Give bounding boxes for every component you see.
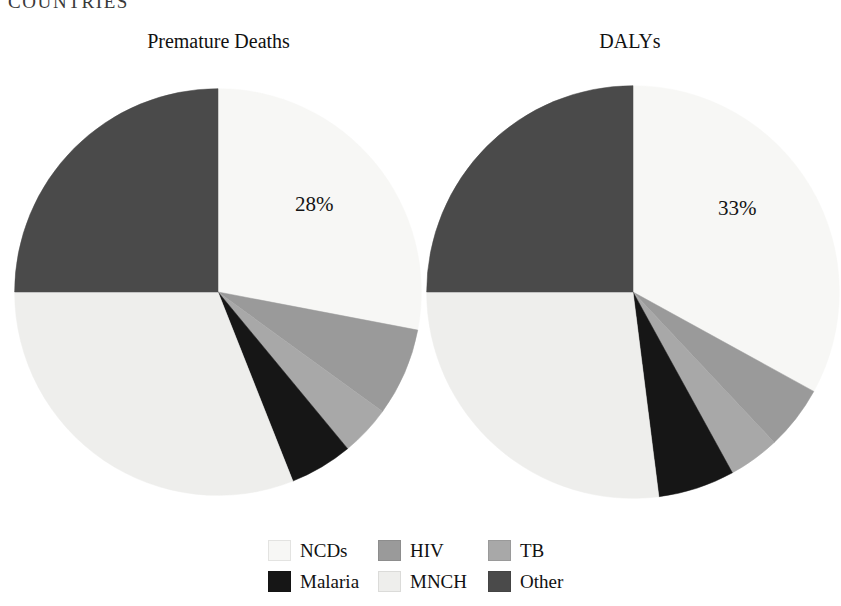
running-head: COUNTRIES bbox=[8, 0, 129, 13]
legend-item-ncds: NCDs bbox=[268, 540, 378, 562]
pie-slice-mnch bbox=[427, 292, 659, 498]
legend-label-tb: TB bbox=[520, 540, 544, 562]
pie-slice-other bbox=[15, 89, 218, 292]
pie-chart-premature-deaths bbox=[13, 87, 423, 497]
legend-item-other: Other bbox=[488, 571, 598, 593]
legend-label-malaria: Malaria bbox=[300, 571, 359, 593]
panel-title-dalys: DALYs bbox=[420, 30, 840, 53]
legend-swatch-tb-icon bbox=[488, 540, 511, 561]
legend-item-mnch: MNCH bbox=[378, 571, 488, 593]
panel-title-premature-deaths: Premature Deaths bbox=[0, 30, 437, 53]
legend-label-ncds: NCDs bbox=[300, 540, 348, 562]
legend-item-malaria: Malaria bbox=[268, 571, 378, 593]
pie-slice-label-ncds-premature-deaths: 28% bbox=[295, 192, 334, 217]
legend-item-hiv: HIV bbox=[378, 540, 488, 562]
legend-label-hiv: HIV bbox=[410, 540, 444, 562]
chart-legend: NCDsHIVTBMalariaMNCHOther bbox=[268, 535, 598, 597]
pie-slice-other bbox=[427, 86, 633, 292]
pie-chart-dalys bbox=[425, 84, 841, 500]
legend-swatch-ncds-icon bbox=[268, 540, 291, 561]
pie-slice-label-ncds-dalys: 33% bbox=[718, 196, 757, 221]
pie-svg-premature-deaths bbox=[13, 87, 423, 497]
legend-swatch-malaria-icon bbox=[268, 571, 291, 592]
legend-swatch-mnch-icon bbox=[378, 571, 401, 592]
legend-label-mnch: MNCH bbox=[410, 571, 467, 593]
pie-svg-dalys bbox=[425, 84, 841, 500]
legend-swatch-other-icon bbox=[488, 571, 511, 592]
legend-label-other: Other bbox=[520, 571, 563, 593]
legend-item-tb: TB bbox=[488, 540, 598, 562]
legend-swatch-hiv-icon bbox=[378, 540, 401, 561]
